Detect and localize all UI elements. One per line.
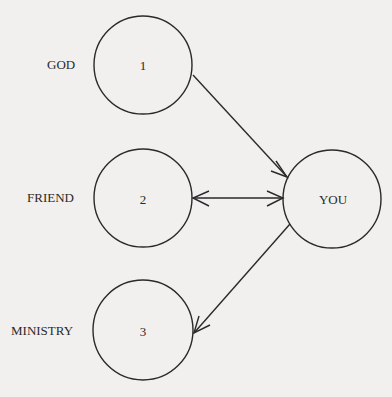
node-label-ministry: MINISTRY — [11, 324, 73, 337]
node-number-1: 1 — [140, 59, 147, 72]
node-number-2: 2 — [140, 193, 147, 206]
node-label-you: YOU — [319, 193, 347, 206]
edge-god-to-you — [193, 75, 287, 177]
node-number-3: 3 — [140, 325, 147, 338]
edge-you-to-ministry — [194, 224, 290, 333]
node-label-god: GOD — [47, 58, 75, 71]
node-label-friend: FRIEND — [27, 191, 74, 204]
edge-friend-you-bidirectional — [193, 191, 283, 206]
